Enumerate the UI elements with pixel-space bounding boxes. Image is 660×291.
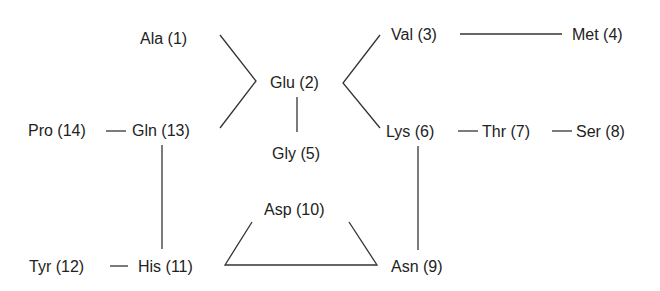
node-gly5: Gly (5) <box>272 145 320 163</box>
node-pro14: Pro (14) <box>28 122 86 140</box>
edge-glu-val-lys <box>343 35 380 128</box>
node-met4: Met (4) <box>572 26 623 44</box>
node-asn9: Asn (9) <box>391 258 443 276</box>
node-tyr12: Tyr (12) <box>29 258 84 276</box>
edge-ala-gln-glu <box>220 35 256 128</box>
connection-lines <box>0 0 660 291</box>
node-gln13: Gln (13) <box>132 122 190 140</box>
node-glu2: Glu (2) <box>270 74 319 92</box>
node-asp10: Asp (10) <box>264 201 324 219</box>
edge-his-asp-asn <box>225 222 377 265</box>
node-val3: Val (3) <box>391 26 437 44</box>
node-his11: His (11) <box>138 258 193 276</box>
node-thr7: Thr (7) <box>482 123 530 141</box>
node-ala1: Ala (1) <box>140 30 187 48</box>
node-ser8: Ser (8) <box>576 123 625 141</box>
diagram-canvas: Ala (1) Glu (2) Val (3) Met (4) Gly (5) … <box>0 0 660 291</box>
node-lys6: Lys (6) <box>386 123 434 141</box>
